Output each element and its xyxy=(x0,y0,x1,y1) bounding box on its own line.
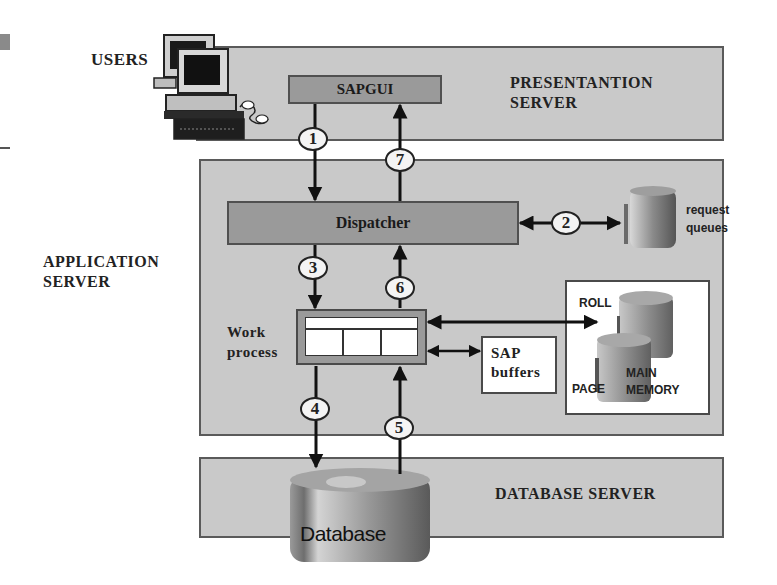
step-4-badge: 4 xyxy=(300,397,330,421)
step-3-badge: 3 xyxy=(298,256,328,280)
step-2-badge: 2 xyxy=(551,211,581,235)
step-6-badge: 6 xyxy=(385,276,415,300)
step-5-badge: 5 xyxy=(384,416,414,440)
step-7-badge: 7 xyxy=(385,148,415,172)
step-1-badge: 1 xyxy=(298,127,328,151)
